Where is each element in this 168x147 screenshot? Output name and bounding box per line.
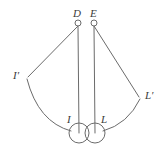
arc-l-to-l-prime [103, 99, 140, 131]
label-e: E [90, 8, 97, 19]
label-l: L [101, 114, 107, 125]
segment-d-to-i [78, 26, 79, 133]
label-i: I [67, 114, 71, 125]
node-d-circle [75, 20, 81, 26]
label-l-prime: L′ [145, 90, 154, 101]
node-e-circle [91, 20, 97, 26]
segment-e-to-l-prime [94, 26, 139, 97]
label-i-prime: I′ [13, 70, 19, 81]
label-d: D [73, 8, 81, 19]
arc-i-prime-to-i [27, 79, 71, 131]
geometry-figure: D E I′ L′ I L [0, 0, 168, 147]
segment-e-to-l [94, 26, 95, 133]
segment-d-to-i-prime [28, 26, 78, 77]
figure-canvas [0, 0, 168, 147]
